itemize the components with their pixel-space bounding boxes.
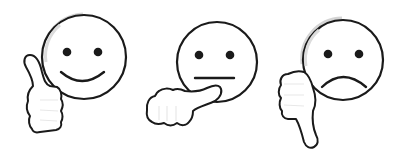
frown-face-icon [303, 19, 383, 100]
thumbs-down-frowny[interactable] [266, 0, 406, 162]
thumbs-up-smiley[interactable] [0, 0, 136, 162]
thumb-sideways-neutral[interactable] [135, 0, 275, 162]
thumbs-up-smiley-icon [0, 0, 136, 162]
thumb-sideways-hand-icon [147, 85, 222, 125]
feedback-rating-icons [0, 0, 406, 162]
thumb-sideways-neutral-icon [135, 0, 275, 162]
thumbs-down-frowny-icon [266, 0, 406, 162]
thumbs-down-hand-icon [279, 71, 318, 148]
